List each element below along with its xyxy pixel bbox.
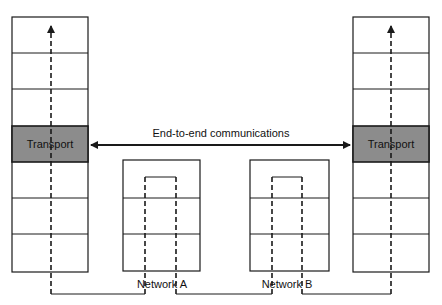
end-to-end-label: End-to-end communications bbox=[153, 127, 290, 139]
left-protocol-stack: Transport bbox=[12, 17, 88, 272]
network-a-router bbox=[123, 160, 200, 271]
osi-transport-diagram: Transport Transport bbox=[0, 0, 442, 305]
network-b-label: Network B bbox=[262, 278, 313, 290]
left-transport-label: Transport bbox=[27, 138, 74, 150]
network-b-router bbox=[250, 160, 329, 271]
data-path bbox=[51, 26, 391, 294]
network-a-label: Network A bbox=[137, 278, 188, 290]
